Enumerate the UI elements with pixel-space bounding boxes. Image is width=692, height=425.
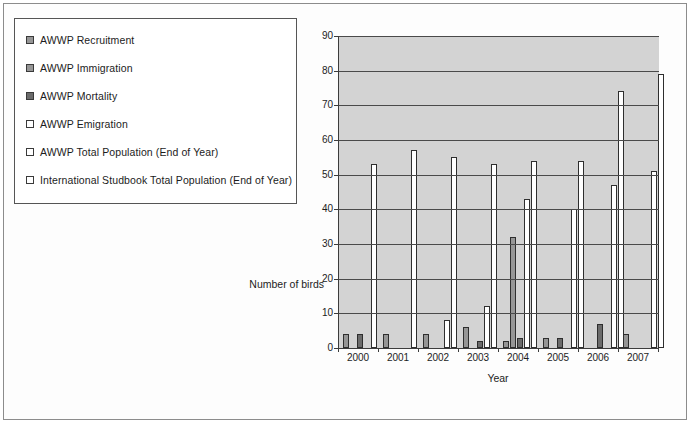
bar-mortality-2003[interactable]	[477, 341, 483, 348]
bar-awwp_total-2001[interactable]	[411, 150, 417, 348]
bar-recruitment-2000[interactable]	[343, 334, 349, 348]
y-tick-label: 30	[299, 238, 333, 249]
legend-swatch-icon	[26, 92, 34, 100]
legend-item-recruitment[interactable]: AWWP Recruitment	[15, 26, 296, 54]
bar-group-2000	[343, 36, 385, 348]
bar-mortality-2004[interactable]	[517, 338, 523, 348]
x-axis-labels: 20002001200220032004200520062007	[338, 352, 658, 370]
y-tick-mark	[334, 140, 339, 141]
x-tick-label: 2002	[418, 352, 458, 363]
y-tick-mark	[334, 105, 339, 106]
bar-group-2007	[623, 36, 665, 348]
legend-swatch-icon	[26, 36, 34, 44]
legend-item-emigration[interactable]: AWWP Emigration	[15, 110, 296, 138]
legend-item-label: AWWP Total Population (End of Year)	[40, 146, 218, 158]
bar-mortality-2006[interactable]	[597, 324, 603, 348]
x-tick-label: 2006	[578, 352, 618, 363]
y-gridline	[339, 313, 659, 314]
bar-awwp_total-2000[interactable]	[371, 164, 377, 348]
y-tick-label: 20	[299, 273, 333, 284]
x-tick-mark	[338, 348, 339, 352]
bar-awwp_total-2007[interactable]	[651, 171, 657, 348]
bar-group-2006	[583, 36, 625, 348]
legend-item-immigration[interactable]: AWWP Immigration	[15, 54, 296, 82]
y-gridline	[339, 244, 659, 245]
y-tick-label: 70	[299, 99, 333, 110]
x-tick-label: 2004	[498, 352, 538, 363]
x-tick-label: 2005	[538, 352, 578, 363]
bar-emigration-2004[interactable]	[524, 199, 530, 348]
bar-recruitment-2005[interactable]	[543, 338, 549, 348]
legend-swatch-icon	[26, 148, 34, 156]
bar-mortality-2005[interactable]	[557, 338, 563, 348]
legend-item-label: AWWP Recruitment	[40, 34, 134, 46]
bar-group-2001	[383, 36, 425, 348]
x-tick-mark	[578, 348, 579, 352]
legend-item-label: AWWP Emigration	[40, 118, 128, 130]
y-tick-label: 40	[299, 203, 333, 214]
y-tick-mark	[334, 36, 339, 37]
bar-immigration-2004[interactable]	[510, 237, 516, 348]
legend-swatch-icon	[26, 120, 34, 128]
y-tick-label: 60	[299, 134, 333, 145]
y-gridline	[339, 71, 659, 72]
bar-recruitment-2001[interactable]	[383, 334, 389, 348]
bar-awwp_total-2003[interactable]	[491, 164, 497, 348]
legend-item-awwp_total[interactable]: AWWP Total Population (End of Year)	[15, 138, 296, 166]
y-tick-mark	[334, 244, 339, 245]
bar-recruitment-2007[interactable]	[623, 334, 629, 348]
y-tick-label: 90	[299, 30, 333, 41]
x-tick-mark	[618, 348, 619, 352]
bar-awwp_total-2002[interactable]	[451, 157, 457, 348]
bar-recruitment-2002[interactable]	[423, 334, 429, 348]
x-tick-mark	[538, 348, 539, 352]
bar-mortality-2000[interactable]	[357, 334, 363, 348]
bar-emigration-2002[interactable]	[444, 320, 450, 348]
y-tick-mark	[334, 313, 339, 314]
y-gridline	[339, 279, 659, 280]
y-gridline	[339, 209, 659, 210]
bar-recruitment-2004[interactable]	[503, 341, 509, 348]
x-axis-title: Year	[338, 372, 658, 384]
x-tick-mark	[498, 348, 499, 352]
legend-item-label: AWWP Immigration	[40, 62, 133, 74]
y-tick-mark	[334, 209, 339, 210]
legend-item-studbook_total[interactable]: International Studbook Total Population …	[15, 166, 296, 194]
y-tick-mark	[334, 71, 339, 72]
x-tick-label: 2000	[338, 352, 378, 363]
y-tick-label: 10	[299, 307, 333, 318]
y-gridline	[339, 105, 659, 106]
legend-swatch-icon	[26, 64, 34, 72]
x-tick-label: 2001	[378, 352, 418, 363]
bar-chart: Number of birds 0102030405060708090 2000…	[300, 22, 678, 400]
x-tick-mark	[378, 348, 379, 352]
bar-group-2002	[423, 36, 465, 348]
bar-awwp_total-2004[interactable]	[531, 161, 537, 348]
bar-recruitment-2003[interactable]	[463, 327, 469, 348]
y-gridline	[339, 175, 659, 176]
legend-swatch-icon	[26, 176, 34, 184]
x-tick-label: 2007	[618, 352, 658, 363]
x-tick-mark	[458, 348, 459, 352]
y-tick-label: 80	[299, 65, 333, 76]
plot-area: 0102030405060708090	[338, 36, 659, 349]
x-tick-mark	[418, 348, 419, 352]
bar-group-2004	[503, 36, 545, 348]
y-tick-label: 50	[299, 169, 333, 180]
legend-item-mortality[interactable]: AWWP Mortality	[15, 82, 296, 110]
bar-group-2003	[463, 36, 505, 348]
chart-legend: AWWP RecruitmentAWWP ImmigrationAWWP Mor…	[14, 18, 297, 204]
y-tick-mark	[334, 279, 339, 280]
x-tick-mark	[658, 348, 659, 352]
y-gridline	[339, 140, 659, 141]
x-tick-label: 2003	[458, 352, 498, 363]
screenshot-root: AWWP RecruitmentAWWP ImmigrationAWWP Mor…	[0, 0, 692, 425]
bar-studbook_total-2007[interactable]	[658, 74, 664, 348]
bars-layer	[339, 36, 659, 348]
legend-item-label: AWWP Mortality	[40, 90, 117, 102]
y-gridline	[339, 36, 659, 37]
y-tick-mark	[334, 175, 339, 176]
bar-group-2005	[543, 36, 585, 348]
legend-item-label: International Studbook Total Population …	[40, 174, 292, 186]
y-tick-label: 0	[299, 342, 333, 353]
